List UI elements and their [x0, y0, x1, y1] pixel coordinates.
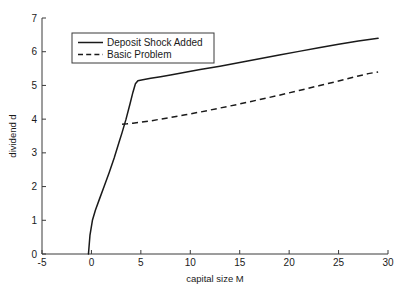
x-tick-label: 15: [234, 257, 246, 268]
figure-container: -5051015202530 01234567 capital size M d…: [0, 0, 407, 295]
y-tick-label: 4: [31, 114, 37, 125]
x-tick-label: -5: [38, 257, 47, 268]
legend-label-basic-problem: Basic Problem: [107, 49, 171, 60]
x-tick-label: 25: [333, 257, 345, 268]
x-tick-label: 0: [89, 257, 95, 268]
x-axis-title: capital size M: [186, 273, 244, 284]
y-tick-label: 5: [31, 80, 37, 91]
legend-label-deposit-shock-added: Deposit Shock Added: [107, 37, 203, 48]
y-tick-label: 6: [31, 46, 37, 57]
y-tick-label: 2: [31, 181, 37, 192]
x-tick-label: 30: [382, 257, 394, 268]
y-tick-label: 1: [31, 215, 37, 226]
line-chart: -5051015202530 01234567 capital size M d…: [0, 0, 407, 295]
x-tick-label: 20: [284, 257, 296, 268]
y-tick-label: 0: [31, 249, 37, 260]
x-tick-label: 10: [185, 257, 197, 268]
y-tick-label: 3: [31, 147, 37, 158]
legend: Deposit Shock Added Basic Problem: [72, 33, 214, 63]
y-tick-label: 7: [31, 13, 37, 24]
x-tick-label: 5: [138, 257, 144, 268]
y-axis-title: dividend d: [7, 114, 18, 157]
